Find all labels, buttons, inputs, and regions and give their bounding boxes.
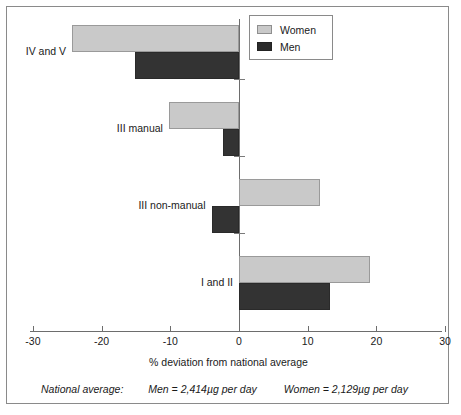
x-tick-label-1: -20 [94,335,109,347]
legend-label-women: Women [280,24,316,36]
footnote-label: National average: [41,383,123,395]
x-tick-6 [445,326,446,332]
x-tick-0 [33,326,34,332]
bar-men-3 [239,283,330,310]
x-tick-4 [308,326,309,332]
category-label-2: III non-manual [7,199,206,211]
bar-men-1 [223,129,239,156]
chart-legend: Women Men [249,15,333,60]
bar-men-2 [212,206,239,233]
category-label-1: III manual [7,122,163,134]
x-tick-3 [239,326,240,332]
x-tick-5 [376,326,377,332]
bar-women-1 [169,102,239,129]
x-tick-label-5: 20 [371,335,383,347]
footnote-women-value: Women = 2,129µg per day [284,383,408,395]
footnote: National average: Men = 2,414µg per day … [41,383,408,395]
group-tick-1 [234,156,245,157]
x-axis-title: % deviation from national average [7,356,450,368]
legend-item-men: Men [257,38,332,55]
x-axis-line [30,331,442,332]
legend-item-women: Women [257,21,332,38]
category-label-3: I and II [7,276,233,288]
group-tick-2 [234,233,245,234]
plot-area: IV and VIII manualIII non-manualI and II [7,7,450,337]
legend-swatch-women-icon [257,25,272,34]
x-tick-1 [102,326,103,332]
category-label-0: IV and V [7,45,66,57]
group-tick-0 [234,79,245,80]
x-tick-label-0: -30 [25,335,40,347]
bar-women-3 [239,256,370,283]
chart-figure: IV and VIII manualIII non-manualI and II… [6,6,449,404]
bar-men-0 [135,52,239,79]
bar-women-2 [239,179,320,206]
footnote-men-value: Men = 2,414µg per day [148,383,257,395]
x-tick-label-3: 0 [236,335,242,347]
bar-women-0 [72,25,239,52]
x-tick-label-2: -10 [163,335,178,347]
x-tick-label-6: 30 [439,335,451,347]
x-tick-2 [170,326,171,332]
legend-swatch-men-icon [257,42,272,51]
x-tick-label-4: 10 [302,335,314,347]
legend-label-men: Men [280,41,300,53]
